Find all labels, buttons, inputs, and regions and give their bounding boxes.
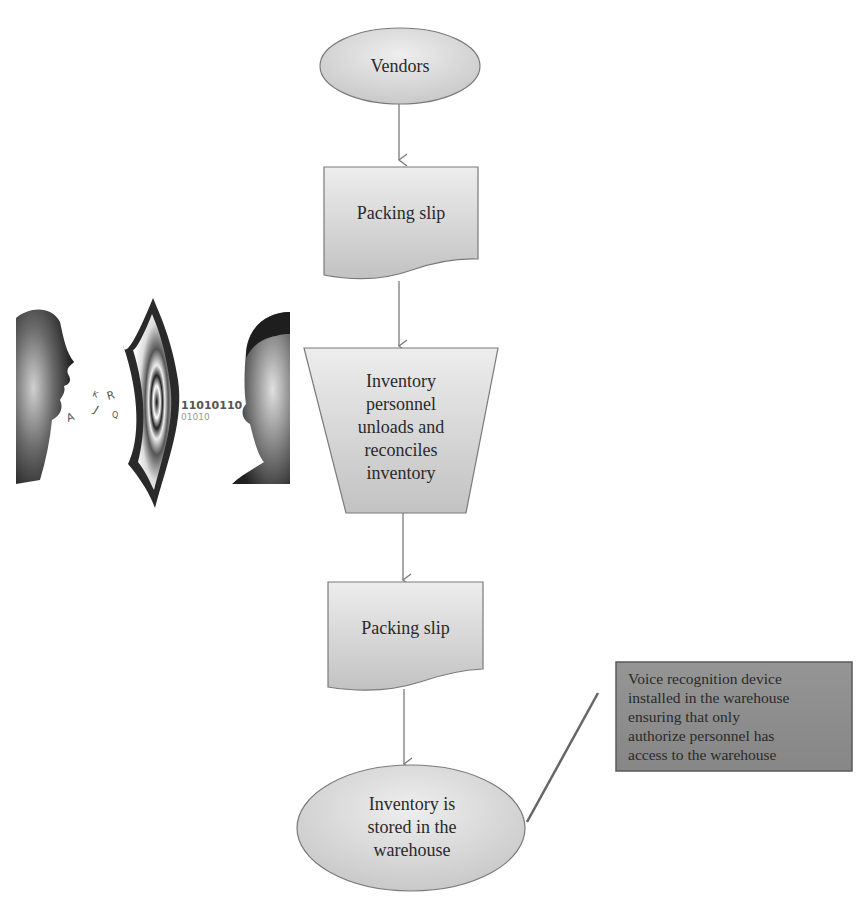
binary-text-1: 11010110 <box>181 399 243 412</box>
letter-r: R <box>105 388 116 403</box>
floating-letters: A J R K Q <box>65 388 119 425</box>
node-stored-ellipse[interactable] <box>297 765 525 891</box>
letter-q: Q <box>112 411 118 420</box>
node-vendors-ellipse[interactable] <box>320 28 480 104</box>
letter-k: K <box>91 389 100 400</box>
letter-a: A <box>65 410 77 425</box>
annotation-connector-line <box>527 693 598 822</box>
flowchart-canvas: A J R K Q 11010110 01010 <box>0 0 864 902</box>
node-packing-slip-2-document[interactable] <box>328 582 483 690</box>
voice-recognition-illustration: A J R K Q 11010110 01010 <box>16 298 290 508</box>
node-unload-reconcile-trapezoid[interactable] <box>304 348 498 513</box>
node-packing-slip-1-document[interactable] <box>324 167 478 279</box>
letter-j: J <box>91 403 101 416</box>
binary-text-2: 01010 <box>181 412 210 422</box>
speaking-face-profile <box>16 309 74 484</box>
annotation-note-box[interactable] <box>616 662 852 771</box>
